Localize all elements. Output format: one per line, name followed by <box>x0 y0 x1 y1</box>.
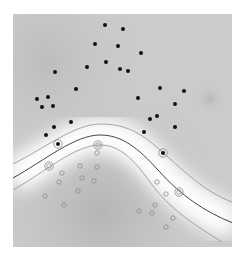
positive-point <box>69 120 73 124</box>
positive-point <box>44 133 48 137</box>
positive-support-vector <box>161 151 165 155</box>
positive-point <box>158 86 162 90</box>
plot-canvas <box>0 0 245 253</box>
positive-point <box>52 125 56 129</box>
positive-point <box>118 67 122 71</box>
positive-point <box>53 70 57 74</box>
positive-point <box>46 95 50 99</box>
positive-point <box>173 102 177 106</box>
positive-point <box>142 130 146 134</box>
background-field <box>13 14 233 247</box>
positive-point <box>116 44 120 48</box>
positive-point <box>104 60 108 64</box>
positive-point <box>136 96 140 100</box>
positive-point <box>139 51 143 55</box>
positive-point <box>103 23 107 27</box>
positive-point <box>173 125 177 129</box>
svm-diagram <box>0 0 245 253</box>
positive-point <box>74 87 78 91</box>
positive-support-vector <box>56 142 60 146</box>
positive-point <box>126 69 130 73</box>
positive-point <box>148 117 152 121</box>
positive-point <box>51 104 55 108</box>
positive-point <box>85 65 89 69</box>
positive-point <box>182 89 186 93</box>
positive-point <box>93 42 97 46</box>
positive-point <box>121 27 125 31</box>
positive-point <box>40 105 44 109</box>
positive-point <box>155 114 159 118</box>
positive-point <box>35 97 39 101</box>
